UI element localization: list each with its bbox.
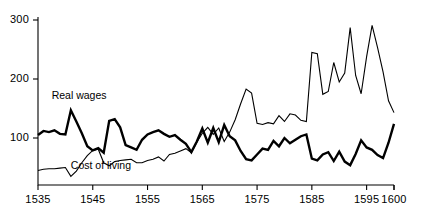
chart-plot-area: [0, 0, 426, 217]
x-tick-label-1585: 1585: [292, 193, 332, 205]
series-line-real-wages: [38, 110, 394, 165]
x-tick-label-1535: 1535: [18, 193, 58, 205]
x-tick-label-1565: 1565: [182, 193, 222, 205]
x-tick-label-1545: 1545: [73, 193, 113, 205]
x-tick-label-1555: 1555: [128, 193, 168, 205]
series-annotation-real-wages: Real wages: [52, 89, 107, 101]
x-tick-label-1600: 1600: [374, 193, 414, 205]
y-tick-label-200: 200: [0, 72, 29, 84]
series-annotation-cost-of-living: Cost of living: [71, 159, 131, 171]
chart-figure: 1002003001535154515551565157515851595160…: [0, 0, 426, 217]
x-tick-label-1575: 1575: [237, 193, 277, 205]
y-tick-label-100: 100: [0, 131, 29, 143]
y-tick-label-300: 300: [0, 13, 29, 25]
